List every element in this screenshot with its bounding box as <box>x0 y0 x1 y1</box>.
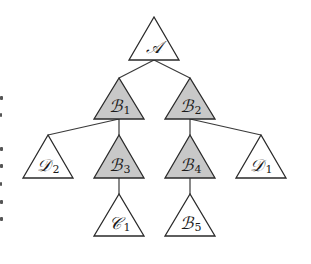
text-fragment <box>0 200 3 204</box>
text-fragment <box>0 217 3 221</box>
node-b5: ℬ5 <box>165 194 215 236</box>
node-subscript: 1 <box>124 221 131 234</box>
node-subscript: 3 <box>124 163 131 176</box>
node-label: ℬ <box>109 155 124 175</box>
node-c1: 𝒞1 <box>94 194 144 236</box>
edges <box>48 60 261 194</box>
node-label: ℬ <box>180 96 195 116</box>
node-subscript: 2 <box>195 104 202 117</box>
edge-b2-d1 <box>190 119 261 135</box>
node-label: ℬ <box>180 213 195 233</box>
node-b1: ℬ1 <box>94 78 144 119</box>
node-b2: ℬ2 <box>165 78 215 119</box>
nodes: 𝒜ℬ1ℬ2𝒟2ℬ3ℬ4𝒟1𝒞1ℬ5 <box>23 17 286 236</box>
text-fragment <box>0 113 2 117</box>
text-fragment <box>0 182 2 186</box>
text-fragment <box>0 147 3 151</box>
edge-b1-d2 <box>48 119 119 135</box>
tree-diagram: 𝒜ℬ1ℬ2𝒟2ℬ3ℬ4𝒟1𝒞1ℬ5 <box>0 0 311 264</box>
text-fragment <box>0 164 3 168</box>
edge-a-b2 <box>154 60 190 78</box>
node-b3: ℬ3 <box>94 135 144 178</box>
node-label: ℬ <box>180 155 195 175</box>
node-subscript: 5 <box>195 221 202 234</box>
node-subscript: 1 <box>124 104 131 117</box>
node-subscript: 2 <box>53 163 60 176</box>
text-fragment <box>0 96 3 100</box>
node-label: ℬ <box>109 96 124 116</box>
node-b4: ℬ4 <box>165 135 215 178</box>
node-d1: 𝒟1 <box>236 135 286 178</box>
edge-a-b1 <box>119 60 154 78</box>
node-subscript: 1 <box>266 163 273 176</box>
node-subscript: 4 <box>195 163 202 176</box>
node-a: 𝒜 <box>129 17 179 60</box>
node-d2: 𝒟2 <box>23 135 73 178</box>
